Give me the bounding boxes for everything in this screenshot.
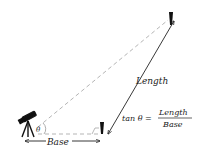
- formula-denominator: Base: [162, 120, 183, 129]
- telescope-icon: [18, 111, 36, 137]
- theta-label: θ: [36, 126, 41, 134]
- length-label: Length: [135, 76, 168, 86]
- right-angle-mark: [92, 128, 99, 134]
- near-pole-icon: [100, 122, 104, 134]
- sight-line-far: [38, 20, 168, 127]
- base-label: Base: [46, 137, 69, 147]
- formula-prefix: tan θ =: [122, 114, 152, 123]
- angle-arc: [43, 123, 46, 134]
- parallax-diagram: θ Length Base tan θ = Length Base: [0, 0, 206, 156]
- formula-numerator: Length: [158, 108, 188, 117]
